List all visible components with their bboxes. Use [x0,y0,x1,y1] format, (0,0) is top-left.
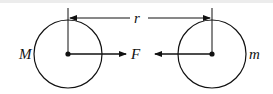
distance-label: r [134,10,140,26]
gravitation-diagram: r M F m [0,0,273,94]
diagram-canvas: r M F m [0,0,273,94]
force-label: F [130,46,141,62]
left-mass-label: M [18,46,33,62]
right-mass-label: m [249,46,260,62]
